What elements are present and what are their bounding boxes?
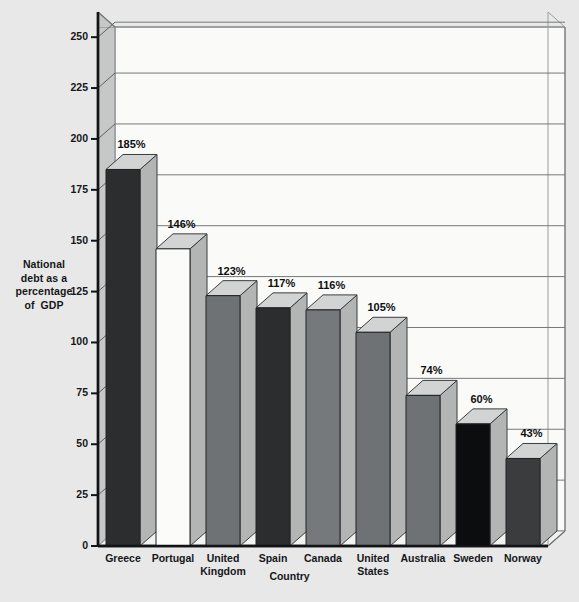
y-tick-label-225: 225 (46, 81, 88, 93)
bar-sweden (456, 409, 507, 546)
y-tick-label-75: 75 (46, 386, 88, 398)
bar-value-label-norway: 43% (507, 427, 557, 439)
x-category-label-norway: Norway (490, 552, 556, 565)
y-tick-label-175: 175 (46, 183, 88, 195)
bar-australia (406, 380, 457, 546)
bar-united-states (356, 317, 407, 546)
y-tick-label-150: 150 (46, 234, 88, 246)
bar-norway (506, 443, 557, 546)
y-tick-label-100: 100 (46, 335, 88, 347)
y-tick-label-50: 50 (46, 437, 88, 449)
bar-canada (306, 295, 357, 546)
y-axis-label-line-2: debt as a (8, 272, 80, 286)
bar-value-label-spain: 117% (257, 277, 307, 289)
y-axis-label-line-1: National (8, 258, 80, 272)
y-tick-label-0: 0 (46, 539, 88, 551)
y-tick-label-125: 125 (46, 285, 88, 297)
bar-value-label-united-states: 105% (357, 301, 407, 313)
x-axis-label: Country (0, 570, 579, 582)
bar-value-label-australia: 74% (407, 364, 457, 376)
bar-value-label-sweden: 60% (457, 393, 507, 405)
bar-value-label-canada: 116% (307, 279, 357, 291)
bar-value-label-portugal: 146% (157, 218, 207, 230)
y-tick-label-200: 200 (46, 132, 88, 144)
y-tick-label-25: 25 (46, 488, 88, 500)
bar-united-kingdom (206, 281, 257, 546)
bar-spain (256, 293, 307, 546)
bar-greece (106, 154, 157, 546)
bar-portugal (156, 234, 207, 546)
chart-root: National debt as a percentage of GDP Cou… (0, 0, 579, 602)
y-axis-label-line-4: of GDP (8, 299, 80, 313)
y-tick-label-250: 250 (46, 30, 88, 42)
bar-value-label-united-kingdom: 123% (207, 265, 257, 277)
bar-value-label-greece: 185% (107, 138, 157, 150)
